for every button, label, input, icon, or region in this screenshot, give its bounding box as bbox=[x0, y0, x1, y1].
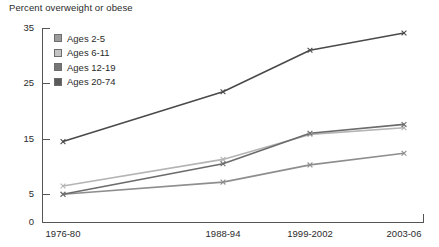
legend-item[interactable]: Ages 6-11 bbox=[54, 46, 116, 61]
y-axis-tick-label: 35 bbox=[8, 22, 34, 33]
legend-swatch-icon bbox=[54, 78, 62, 86]
legend-swatch-icon bbox=[54, 49, 62, 57]
legend-swatch-icon bbox=[54, 63, 62, 71]
y-axis-tick-label: 5 bbox=[8, 188, 34, 199]
legend-swatch-icon bbox=[54, 34, 62, 42]
legend-item[interactable]: Ages 12-19 bbox=[54, 60, 116, 75]
x-axis-tick-label: 1976-80 bbox=[23, 228, 103, 239]
x-axis-tick-label: 2003-06 bbox=[364, 228, 439, 239]
y-axis-tick-label: 0 bbox=[8, 216, 34, 227]
legend-label: Ages 12-19 bbox=[67, 63, 116, 73]
legend-label: Ages 20-74 bbox=[67, 77, 116, 87]
series-line bbox=[63, 128, 404, 186]
chart-container: Percent overweight or obese 05152535 197… bbox=[0, 0, 439, 247]
chart-legend: Ages 2-5Ages 6-11Ages 12-19Ages 20-74 bbox=[54, 31, 116, 89]
legend-item[interactable]: Ages 20-74 bbox=[54, 75, 116, 90]
legend-label: Ages 2-5 bbox=[67, 34, 105, 44]
y-axis-tick-label: 15 bbox=[8, 133, 34, 144]
legend-item[interactable]: Ages 2-5 bbox=[54, 31, 116, 46]
x-axis-tick-label: 1999-2002 bbox=[270, 228, 350, 239]
y-axis-tick-label: 25 bbox=[8, 77, 34, 88]
x-axis-tick-label: 1988-94 bbox=[183, 228, 263, 239]
legend-label: Ages 6-11 bbox=[67, 48, 110, 58]
